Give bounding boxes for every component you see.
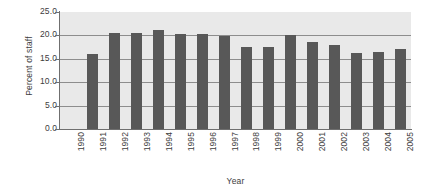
- x-axis-tick-label: 1994: [164, 132, 175, 170]
- bar: [373, 52, 384, 129]
- x-axis-tick-label: 2003: [361, 132, 372, 170]
- x-axis-tick-label: 1999: [273, 132, 284, 170]
- bar: [175, 34, 186, 129]
- y-axis-tick-mark: [55, 129, 60, 130]
- y-axis-tick-mark: [55, 12, 60, 13]
- x-axis-tick-label: 1995: [186, 132, 197, 170]
- bar: [395, 49, 406, 129]
- x-axis-tick-labels: 1990199119921993199419951996199719981999…: [60, 130, 411, 172]
- x-axis-tick-label: 1991: [98, 132, 109, 170]
- bar-chart-figure: Percent of staff 25.020.015.010.05.00.0 …: [0, 0, 428, 194]
- x-axis-tick-label: 1993: [142, 132, 153, 170]
- x-axis-tick-label: 1992: [120, 132, 131, 170]
- x-axis-tick-label: 2000: [295, 132, 306, 170]
- bar: [241, 47, 252, 129]
- y-axis-tick-labels: 25.020.015.010.05.00.0: [29, 0, 57, 194]
- bar: [219, 36, 230, 129]
- bar: [263, 47, 274, 129]
- y-axis-tick-label: 25.0: [29, 7, 57, 16]
- x-axis-tick-label: 1998: [251, 132, 262, 170]
- y-axis-tick-label: 0.0: [29, 124, 57, 133]
- bar: [87, 54, 98, 129]
- y-axis-tick-label: 5.0: [29, 101, 57, 110]
- bar: [109, 33, 120, 129]
- x-axis-tick-label: 1996: [208, 132, 219, 170]
- plot-area: [60, 12, 411, 129]
- bar: [307, 42, 318, 129]
- bars-series: [60, 12, 411, 129]
- x-axis-tick-label: 2001: [317, 132, 328, 170]
- y-axis-tick-mark: [55, 59, 60, 60]
- y-axis-tick-mark: [55, 82, 60, 83]
- bar: [329, 45, 340, 129]
- x-axis-tick-label: 1990: [76, 132, 87, 170]
- x-axis-tick-label: 2004: [383, 132, 394, 170]
- bar: [351, 53, 362, 129]
- bar: [285, 35, 296, 129]
- bar: [131, 33, 142, 129]
- x-axis-tick-label: 2002: [339, 132, 350, 170]
- y-axis-tick-label: 20.0: [29, 30, 57, 39]
- x-axis-tick-label: 1997: [230, 132, 241, 170]
- bar: [197, 34, 208, 129]
- y-axis-tick-label: 10.0: [29, 77, 57, 86]
- y-axis-tick-label: 15.0: [29, 54, 57, 63]
- x-axis-title: Year: [60, 176, 411, 186]
- y-axis-tick-mark: [55, 35, 60, 36]
- x-axis-tick-label: 2005: [405, 132, 416, 170]
- bar: [153, 30, 164, 129]
- y-axis-tick-mark: [55, 106, 60, 107]
